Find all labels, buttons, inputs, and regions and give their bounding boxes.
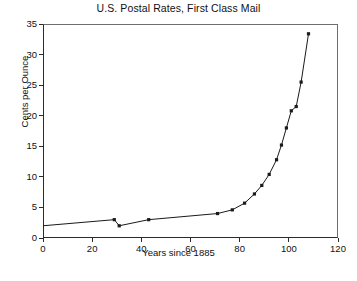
- data-point-marker: [253, 192, 256, 195]
- y-tick-mark: [39, 54, 43, 55]
- y-tick-label: 0: [32, 231, 37, 244]
- y-tick-label: 5: [32, 200, 37, 213]
- data-point-marker: [243, 202, 246, 205]
- x-tick-mark: [288, 238, 289, 242]
- data-point-marker: [275, 158, 278, 161]
- x-axis-label: Years since 1885: [0, 247, 357, 258]
- data-point-marker: [260, 184, 263, 187]
- plot-area: 05101520253035020406080100120: [43, 24, 338, 238]
- x-tick-mark: [92, 238, 93, 242]
- data-point-marker: [280, 143, 283, 146]
- data-point-marker: [285, 126, 288, 129]
- data-point-marker: [290, 109, 293, 112]
- data-point-marker: [118, 224, 121, 227]
- x-tick-mark: [239, 238, 240, 242]
- data-point-marker: [295, 105, 298, 108]
- y-tick-mark: [39, 176, 43, 177]
- chart-figure: U.S. Postal Rates, First Class Mail 0510…: [0, 0, 357, 281]
- y-axis-label: Cents per Ounce: [19, 22, 30, 162]
- x-tick-mark: [338, 238, 339, 242]
- data-point-marker: [268, 173, 271, 176]
- series-line: [43, 34, 309, 226]
- data-point-marker: [147, 218, 150, 221]
- data-point-marker: [216, 212, 219, 215]
- data-point-marker: [300, 80, 303, 83]
- data-point-marker: [113, 218, 116, 221]
- y-tick-mark: [39, 85, 43, 86]
- y-tick-mark: [39, 115, 43, 116]
- y-tick-label: 10: [26, 170, 37, 183]
- chart-title: U.S. Postal Rates, First Class Mail: [0, 2, 357, 14]
- x-tick-mark: [43, 238, 44, 242]
- x-tick-mark: [141, 238, 142, 242]
- y-tick-mark: [39, 24, 43, 25]
- data-point-marker: [231, 208, 234, 211]
- y-tick-mark: [39, 146, 43, 147]
- data-point-marker: [307, 32, 310, 35]
- x-tick-mark: [190, 238, 191, 242]
- y-tick-mark: [39, 207, 43, 208]
- data-series-line: [43, 24, 338, 238]
